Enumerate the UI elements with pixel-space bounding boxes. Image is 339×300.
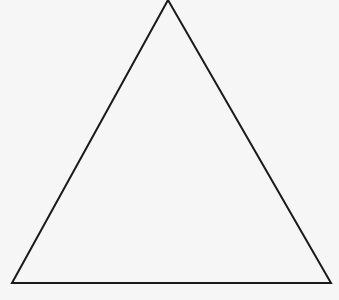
triangle-diagram — [0, 0, 339, 300]
triangle-shape — [12, 0, 331, 283]
diagram-canvas — [0, 0, 339, 300]
